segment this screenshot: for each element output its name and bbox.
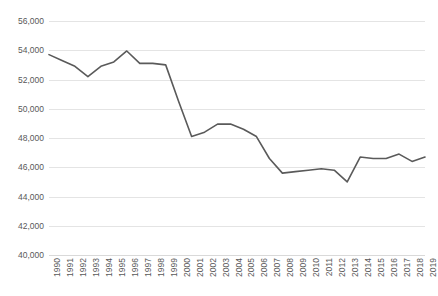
x-axis-tick-label: 2009 bbox=[299, 258, 308, 277]
x-axis-tick-label: 2004 bbox=[235, 258, 244, 277]
x-axis-tick-label: 2019 bbox=[429, 258, 438, 277]
series-line bbox=[49, 51, 425, 182]
y-axis-tick-labels: 40,00042,00044,00046,00048,00050,00052,0… bbox=[0, 21, 44, 255]
x-axis-tick-labels: 1990199119921993199419951996199719981999… bbox=[49, 258, 425, 296]
x-axis-tick-label: 2008 bbox=[286, 258, 295, 277]
x-axis-tick-label: 2012 bbox=[338, 258, 347, 277]
x-axis-tick-label: 1992 bbox=[79, 258, 88, 277]
x-axis-tick-label: 2014 bbox=[364, 258, 373, 277]
x-axis-tick-label: 1997 bbox=[144, 258, 153, 277]
x-axis-tick-label: 2015 bbox=[377, 258, 386, 277]
x-axis-tick-label: 1998 bbox=[157, 258, 166, 277]
x-axis-tick-label: 2018 bbox=[416, 258, 425, 277]
y-axis-tick-label: 48,000 bbox=[0, 134, 44, 143]
x-axis-tick-label: 2007 bbox=[273, 258, 282, 277]
x-axis-tick-label: 2005 bbox=[247, 258, 256, 277]
x-axis-tick-label: 2000 bbox=[183, 258, 192, 277]
x-axis-tick-label: 2006 bbox=[260, 258, 269, 277]
x-axis-tick-label: 1994 bbox=[105, 258, 114, 277]
x-axis-tick-label: 2002 bbox=[209, 258, 218, 277]
series-line-group bbox=[49, 21, 425, 255]
x-axis-line bbox=[49, 255, 425, 256]
x-axis-tick-label: 2001 bbox=[196, 258, 205, 277]
plot-area bbox=[49, 21, 425, 255]
y-axis-tick-label: 42,000 bbox=[0, 222, 44, 231]
x-axis-tick-label: 1991 bbox=[66, 258, 75, 277]
y-axis-tick-label: 46,000 bbox=[0, 163, 44, 172]
y-axis-tick-label: 52,000 bbox=[0, 75, 44, 84]
x-axis-tick-label: 1995 bbox=[118, 258, 127, 277]
y-axis-tick-label: 54,000 bbox=[0, 46, 44, 55]
x-axis-tick-label: 2011 bbox=[325, 258, 334, 276]
x-axis-tick-label: 2010 bbox=[312, 258, 321, 277]
y-axis-tick-label: 56,000 bbox=[0, 17, 44, 26]
x-axis-tick-label: 1999 bbox=[170, 258, 179, 277]
y-axis-tick-label: 50,000 bbox=[0, 105, 44, 114]
x-axis-tick-label: 2017 bbox=[403, 258, 412, 277]
x-axis-tick-label: 1990 bbox=[53, 258, 62, 277]
y-axis-tick-label: 40,000 bbox=[0, 251, 44, 260]
y-axis-tick-label: 44,000 bbox=[0, 192, 44, 201]
x-axis-tick-label: 2016 bbox=[390, 258, 399, 277]
x-axis-tick-label: 1993 bbox=[92, 258, 101, 277]
x-axis-tick-label: 2003 bbox=[222, 258, 231, 277]
x-axis-tick-label: 2013 bbox=[351, 258, 360, 277]
x-axis-tick-label: 1996 bbox=[131, 258, 140, 277]
